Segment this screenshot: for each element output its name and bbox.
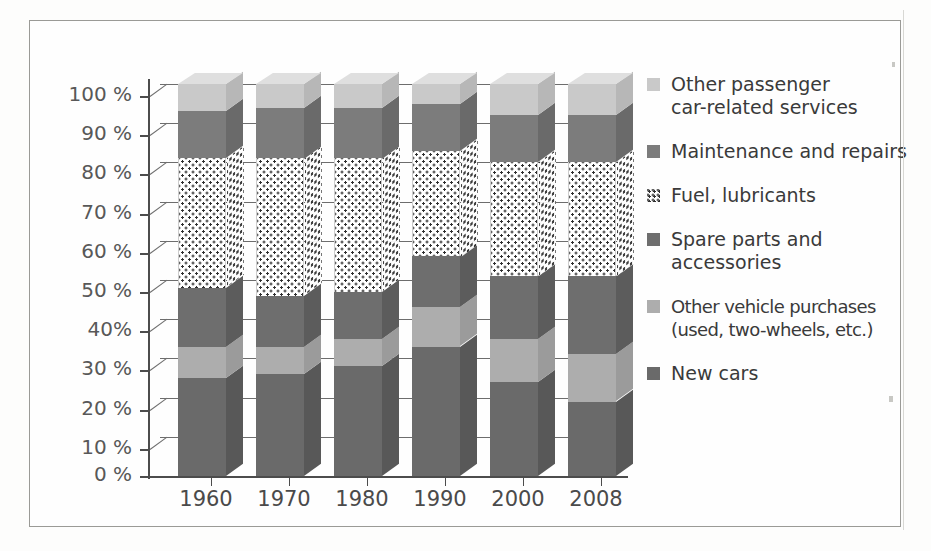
legend-swatch-maintenance-and-repairs <box>647 145 660 158</box>
bar-segment-side <box>616 389 633 476</box>
y-axis-tick-label-wrap: 60 % <box>30 239 132 263</box>
y-axis-tick <box>140 292 150 294</box>
y-axis-tick-label-wrap: 50 % <box>30 278 132 302</box>
gridline-depth-edge <box>150 162 168 175</box>
legend-swatch-other-passenger-car-related-services <box>647 78 660 91</box>
x-axis-tick <box>367 478 368 486</box>
bar-segment-1960-0 <box>178 378 226 476</box>
bar-segment-2000-2 <box>490 276 538 339</box>
gridline-depth-edge <box>150 201 168 214</box>
bar-segment-1960-1 <box>178 347 226 378</box>
gridline-depth-edge <box>150 358 168 371</box>
bar-2008 <box>568 84 616 476</box>
legend-label-other-passenger-car-related-services: Other passenger car-related services <box>671 73 858 119</box>
bar-segment-1990-0 <box>412 347 460 476</box>
bar-segment-2008-0 <box>568 402 616 476</box>
bar-segment-side <box>304 362 321 476</box>
y-axis-tick-label-wrap: 100 % <box>30 82 132 106</box>
bar-segment-1970-0 <box>256 374 304 476</box>
y-axis-tick-label-wrap: 80 % <box>30 160 132 184</box>
legend-label-maintenance-and-repairs: Maintenance and repairs <box>671 140 907 163</box>
legend-item-fuel-lubricants: Fuel, lubricants <box>647 184 922 207</box>
y-axis-tick-label-wrap: 40% <box>30 317 132 341</box>
scan-speck <box>892 62 895 67</box>
legend-item-spare-parts-and-accessories: Spare parts and accessories <box>647 228 922 274</box>
y-axis-tick-labels: 100 %90 %80 %70 %60 %50 %40%30 %20 %10 %… <box>30 21 136 551</box>
chart-legend: Other passenger car-related servicesMain… <box>647 73 922 406</box>
y-axis-tick-label-wrap: 10 % <box>30 435 132 459</box>
gridline-depth-edge <box>150 397 168 410</box>
x-axis-tick <box>289 478 290 486</box>
y-axis-tick-label-wrap: 20 % <box>30 396 132 420</box>
legend-label-fuel-lubricants: Fuel, lubricants <box>671 184 816 207</box>
bar-segment-2008-2 <box>568 276 616 354</box>
x-axis-tick-label-1990: 1990 <box>400 487 480 511</box>
y-axis-tick-label-wrap: 90 % <box>30 121 132 145</box>
y-axis-tick <box>140 253 150 255</box>
bar-segment-1970-5 <box>256 84 304 108</box>
x-axis-tick <box>601 478 602 486</box>
y-axis-tick-label: 0 % <box>30 462 132 486</box>
bar-segment-1990-5 <box>412 84 460 104</box>
legend-swatch-new-cars <box>647 367 660 380</box>
bar-segment-2008-5 <box>568 84 616 115</box>
bar-segment-1970-3 <box>256 158 304 295</box>
bar-1990 <box>412 84 460 476</box>
bar-segment-side <box>538 370 555 476</box>
gridline-depth-edge <box>150 123 168 136</box>
bar-segment-side <box>538 264 555 339</box>
gridline-depth-edge <box>150 437 168 450</box>
bar-segment-2000-1 <box>490 339 538 382</box>
bar-segment-2008-3 <box>568 162 616 276</box>
bar-segment-side <box>383 146 400 292</box>
bar-segment-1990-1 <box>412 307 460 346</box>
bar-segment-side <box>227 146 244 288</box>
legend-item-other-vehicle-purchases: Other vehicle purchases (used, two-wheel… <box>647 295 922 341</box>
legend-item-new-cars: New cars <box>647 362 922 385</box>
y-axis-tick-label: 80 % <box>30 160 132 184</box>
gridline-depth-edge <box>150 319 168 332</box>
bar-1980 <box>334 84 382 476</box>
x-axis-tick-label-1980: 1980 <box>322 487 402 511</box>
y-axis-tick-label: 100 % <box>30 82 132 106</box>
bar-segment-side <box>539 150 556 276</box>
bar-1960 <box>178 84 226 476</box>
y-axis-tick-label: 90 % <box>30 121 132 145</box>
bar-segment-1980-2 <box>334 292 382 339</box>
gridline-depth-edge <box>150 241 168 254</box>
y-axis-tick-label: 10 % <box>30 435 132 459</box>
bar-segment-1990-4 <box>412 104 460 151</box>
bar-segment-2000-5 <box>490 84 538 115</box>
x-axis-tick-label-1970: 1970 <box>244 487 324 511</box>
bar-segment-1990-3 <box>412 151 460 257</box>
y-axis-tick-label-wrap: 70 % <box>30 200 132 224</box>
y-axis-tick-label: 30 % <box>30 356 132 380</box>
bar-segment-1990-2 <box>412 256 460 307</box>
x-axis-tick-label-2008: 2008 <box>556 487 636 511</box>
bar-segment-2000-3 <box>490 162 538 276</box>
gridline-depth-edge <box>150 84 168 97</box>
bar-segment-1980-0 <box>334 366 382 476</box>
bar-segment-side <box>305 146 322 296</box>
bar-segment-1980-5 <box>334 84 382 108</box>
bar-1970 <box>256 84 304 476</box>
bar-segment-side <box>226 366 243 476</box>
bar-segment-1970-4 <box>256 108 304 159</box>
y-axis-tick-label: 60 % <box>30 239 132 263</box>
gridline-depth-edge <box>150 280 168 293</box>
y-axis-tick-label: 40% <box>30 317 132 341</box>
bar-segment-2008-1 <box>568 354 616 401</box>
y-axis-tick <box>140 214 150 216</box>
legend-label-new-cars: New cars <box>671 362 758 385</box>
scan-edge-line <box>903 10 904 530</box>
y-axis-tick-label-wrap: 0 % <box>30 462 132 486</box>
bar-segment-1980-4 <box>334 108 382 159</box>
y-axis-tick <box>140 96 150 98</box>
bar-segment-1960-4 <box>178 111 226 158</box>
y-axis-tick-label: 20 % <box>30 396 132 420</box>
bar-segment-1980-3 <box>334 158 382 291</box>
y-axis-tick <box>140 174 150 176</box>
legend-item-maintenance-and-repairs: Maintenance and repairs <box>647 140 922 163</box>
x-axis-tick <box>445 478 446 486</box>
legend-item-other-passenger-car-related-services: Other passenger car-related services <box>647 73 922 119</box>
